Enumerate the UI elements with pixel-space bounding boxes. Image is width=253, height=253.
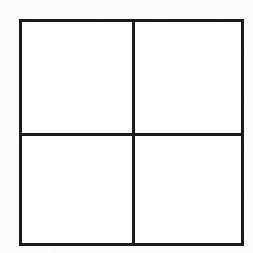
quadrant-bottom-left [21, 136, 132, 244]
quadrant-bottom-right [135, 136, 242, 244]
figure-canvas [0, 0, 253, 253]
quadrant-top-left [21, 21, 132, 133]
quadrant-top-right [135, 21, 242, 133]
